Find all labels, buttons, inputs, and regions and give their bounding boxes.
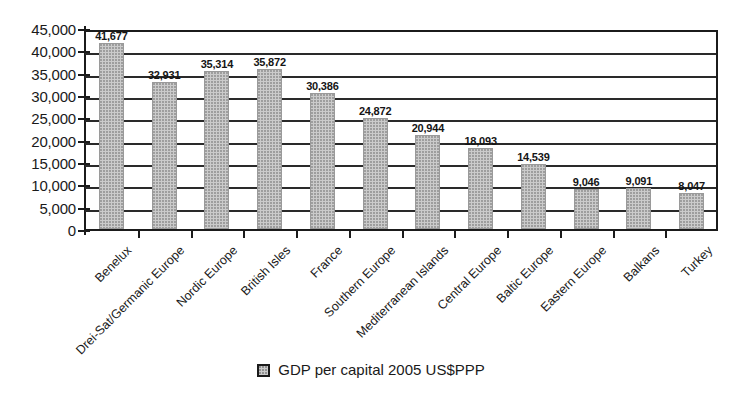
bar (521, 164, 546, 229)
y-axis-tick-label: 25,000 (0, 111, 76, 126)
x-axis-category-label: Balkans (621, 244, 662, 285)
y-axis-tick-label: 35,000 (0, 67, 76, 82)
x-axis-category-label: Benelux (93, 244, 134, 285)
bar (468, 148, 493, 229)
y-axis-tick-label: 15,000 (0, 156, 76, 171)
x-axis-tick (191, 231, 193, 238)
x-axis-category-label: Turkey (679, 244, 715, 280)
gridline (85, 120, 716, 122)
y-axis-tick-label: 30,000 (0, 89, 76, 104)
y-axis-tick (78, 163, 90, 165)
bar (204, 71, 229, 229)
y-axis-tick-label: 0 (0, 223, 76, 238)
y-axis-tick (78, 230, 90, 232)
legend-label: GDP per capital 2005 US$PPP (278, 362, 485, 378)
bar (626, 188, 651, 229)
y-axis-tick-label: 20,000 (0, 134, 76, 149)
y-axis-tick-label: 10,000 (0, 178, 76, 193)
x-axis-tick (454, 231, 456, 238)
bar (415, 135, 440, 229)
bar-value-label: 41,677 (81, 31, 141, 42)
legend-swatch-icon (257, 364, 270, 377)
gridline (85, 143, 716, 145)
bar-value-label: 18,093 (451, 136, 511, 147)
y-axis-tick (78, 74, 90, 76)
bar-value-label: 24,872 (345, 106, 405, 117)
x-axis-tick (402, 231, 404, 238)
x-axis-category-label: Mediterranean Islands (354, 244, 451, 341)
bar-value-label: 35,314 (187, 59, 247, 70)
bar-value-label: 9,046 (556, 177, 616, 188)
x-axis-tick (613, 231, 615, 238)
x-axis-tick (349, 231, 351, 238)
x-axis-tick (296, 231, 298, 238)
gridline (85, 53, 716, 55)
y-axis-tick-label: 40,000 (0, 44, 76, 59)
bar (363, 118, 388, 229)
bar (99, 43, 124, 229)
bar-value-label: 20,944 (398, 123, 458, 134)
gridline (85, 187, 716, 189)
y-axis-tick-label: 45,000 (0, 22, 76, 37)
chart-legend: GDP per capital 2005 US$PPP (0, 362, 742, 378)
bar (257, 69, 282, 229)
gridline (85, 210, 716, 212)
y-axis-tick (78, 208, 90, 210)
gridline (85, 98, 716, 100)
x-axis-category-label: British Isles (238, 244, 292, 298)
bar-value-label: 14,539 (503, 152, 563, 163)
x-axis-category-label: France (309, 244, 346, 281)
bar (310, 93, 335, 229)
bar-value-label: 32,931 (134, 70, 194, 81)
x-axis-tick (507, 231, 509, 238)
x-axis-category-label: Drei-Sat/Germanic Europe (74, 244, 187, 357)
gdp-per-capita-bar-chart: 45,00040,00035,00030,00025,00020,00015,0… (0, 0, 742, 405)
bar-value-label: 30,386 (292, 81, 352, 92)
y-axis-tick-label: 5,000 (0, 201, 76, 216)
bar (679, 193, 704, 229)
bar (574, 189, 599, 229)
x-axis-tick (138, 231, 140, 238)
x-axis-tick (243, 231, 245, 238)
y-axis-tick (78, 185, 90, 187)
x-axis-tick (560, 231, 562, 238)
gridline (85, 165, 716, 167)
bar (152, 82, 177, 229)
y-axis-tick (78, 118, 90, 120)
y-axis-tick (78, 51, 90, 53)
bar-value-label: 8,047 (662, 181, 722, 192)
x-axis-tick (665, 231, 667, 238)
y-axis-tick (78, 141, 90, 143)
bar-value-label: 9,091 (609, 176, 669, 187)
bar-value-label: 35,872 (240, 57, 300, 68)
y-axis-tick (78, 96, 90, 98)
